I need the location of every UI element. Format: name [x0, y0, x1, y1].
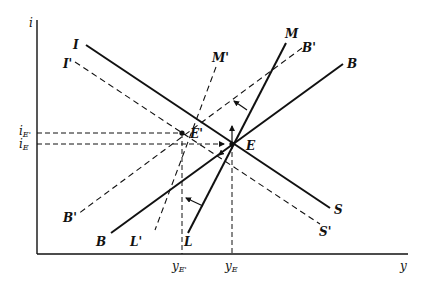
label-l: L [183, 235, 192, 249]
x-axis-label: y [399, 259, 407, 273]
label-b-prime-top: B' [301, 41, 316, 55]
label-e-prime: E' [189, 127, 203, 141]
diagram: i y I I' S S' M M' L L' B B B' B' E E' i… [0, 0, 427, 284]
tick-y-e: yE [224, 259, 238, 274]
point-e-prime [179, 130, 184, 135]
label-s: S [334, 203, 343, 217]
label-m: M [284, 27, 299, 41]
shift-arrow-bp-icon [234, 101, 247, 110]
label-m-prime: M' [211, 51, 229, 65]
shift-arrow-lm-icon [186, 198, 203, 206]
label-l-prime: L' [129, 235, 142, 249]
y-axis-label: i [29, 16, 33, 30]
is-prime-curve [75, 62, 320, 224]
lm-prime-curve [155, 67, 216, 230]
is-curve [86, 45, 330, 208]
tick-i-e: iE [19, 137, 29, 152]
label-i: I [72, 38, 79, 52]
label-b-prime-bottom: B' [62, 211, 77, 225]
tick-y-e-prime: yE' [171, 259, 187, 274]
label-i-prime: I' [62, 57, 72, 71]
label-b-top: B [346, 57, 357, 71]
point-e [229, 141, 234, 146]
label-s-prime: S' [319, 225, 331, 239]
bb-curve [111, 64, 343, 233]
label-e: E [245, 139, 256, 153]
label-b-bottom: B [95, 235, 106, 249]
